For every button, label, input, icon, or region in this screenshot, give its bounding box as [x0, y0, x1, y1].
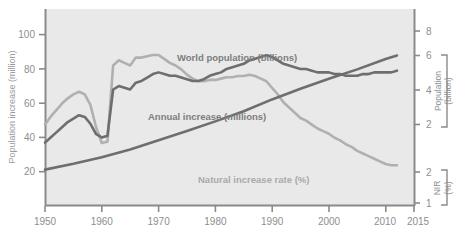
- annotation-annual-increase: Annual increase (millions): [148, 111, 266, 122]
- right-lower-tick-label-1: 1: [426, 198, 432, 209]
- chart-canvas: 20 40 60 80 100 Population increase (mil…: [0, 0, 463, 241]
- annotation-natural-increase-rate: Natural increase rate (%): [198, 174, 309, 185]
- x-tick-label-1970: 1970: [147, 216, 170, 227]
- left-tick-label-100: 100: [18, 29, 35, 40]
- right-lower-axis-title-line2: (%): [443, 181, 453, 194]
- right-upper-tick-label-8: 8: [426, 26, 432, 37]
- left-axis-ticks: [39, 35, 45, 172]
- x-tick-label-2015: 2015: [407, 216, 430, 227]
- right-upper-axis-title-line2: (billion): [443, 77, 453, 105]
- x-tick-label-1960: 1960: [91, 216, 114, 227]
- right-upper-tick-label-2: 2: [426, 119, 432, 130]
- right-lower-tick-label-2: 2: [426, 167, 432, 178]
- x-tick-label-2010: 2010: [374, 216, 397, 227]
- right-upper-axis-title-line1: Population: [433, 71, 443, 111]
- population-growth-chart: 20 40 60 80 100 Population increase (mil…: [0, 0, 463, 241]
- left-tick-label-80: 80: [24, 64, 36, 75]
- x-tick-label-2000: 2000: [318, 216, 341, 227]
- right-upper-tick-label-6: 6: [426, 50, 432, 61]
- left-tick-label-40: 40: [24, 132, 36, 143]
- right-lower-axis-title-line1: NIR: [432, 181, 442, 196]
- right-upper-tick-label-4: 4: [426, 85, 432, 96]
- annotation-world-population: World population (billions): [177, 52, 297, 63]
- left-tick-label-60: 60: [24, 98, 36, 109]
- x-tick-label-1990: 1990: [261, 216, 284, 227]
- x-axis-ticks: [45, 206, 414, 212]
- x-tick-label-1980: 1980: [204, 216, 227, 227]
- left-tick-label-20: 20: [24, 166, 36, 177]
- left-axis-title: Population increase (million): [7, 50, 17, 163]
- x-tick-label-1950: 1950: [34, 216, 57, 227]
